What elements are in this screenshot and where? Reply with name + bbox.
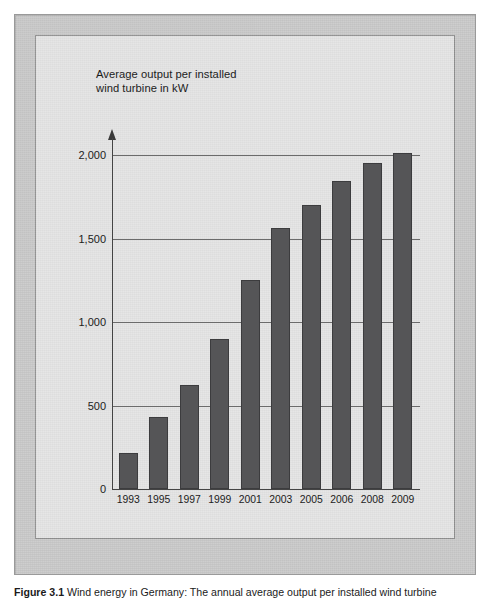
figure-caption: Figure 3.1 Wind energy in Germany: The a… [14, 586, 484, 601]
chart-plot-panel [35, 35, 455, 539]
chart-title: Average output per installed wind turbin… [96, 68, 396, 95]
figure-caption-label: Figure 3.1 [14, 586, 64, 598]
figure-caption-text: Wind energy in Germany: The annual avera… [67, 586, 437, 598]
figure-frame [14, 14, 476, 575]
